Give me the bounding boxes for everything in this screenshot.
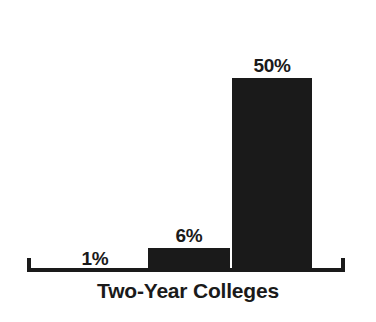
plot-area: 1% 6% 50% Two-Year Colleges [0,0,376,322]
bar-chart: 1% 6% 50% Two-Year Colleges [0,0,376,322]
value-label-1-percent: 1% [62,249,128,268]
value-label-6-percent: 6% [156,226,222,245]
x-axis-title: Two-Year Colleges [0,279,376,302]
value-label-50-percent: 50% [236,56,308,75]
x-axis-right-cap [341,258,345,272]
x-axis-line [27,268,345,272]
x-axis-left-cap [27,258,31,272]
bar-50-percent [232,78,312,271]
